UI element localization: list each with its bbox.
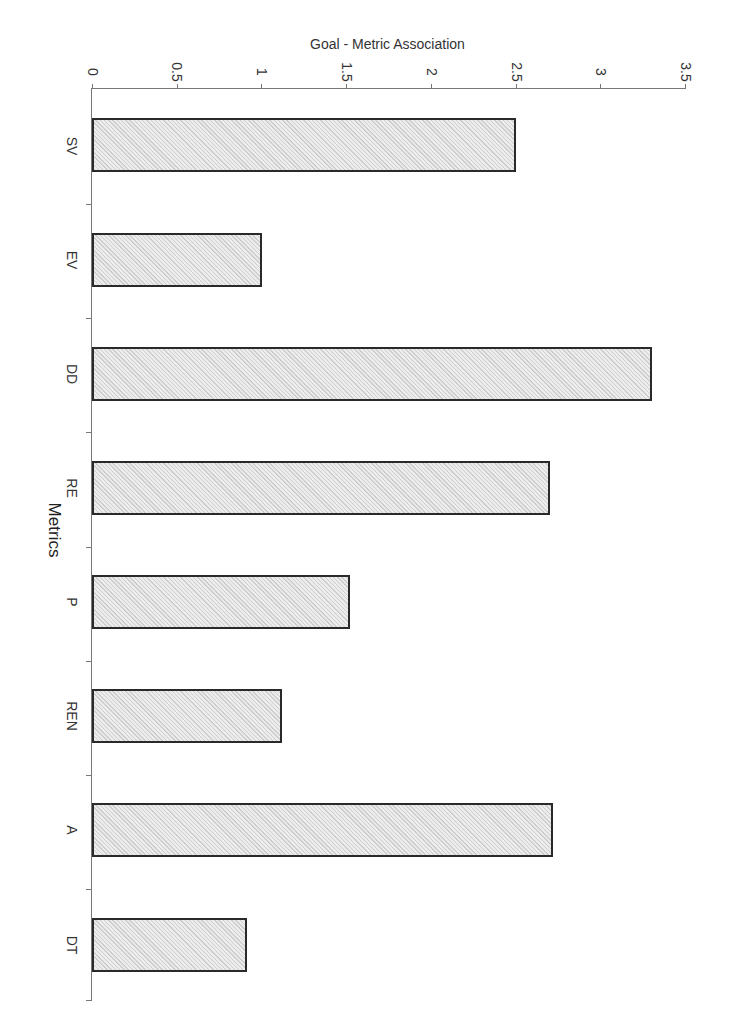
x-tick-label: 3.5	[678, 57, 694, 87]
bar-chart: Goal - Metric Association 0 0.5 1 1.5 2 …	[0, 0, 732, 1032]
x-tick-label: 0.5	[169, 57, 185, 87]
category-label: DD	[64, 354, 80, 394]
bar-re	[92, 461, 550, 515]
bar-dt	[92, 918, 247, 972]
bar-ev	[92, 233, 262, 287]
y-tick	[86, 318, 91, 319]
x-tick-label: 1.5	[339, 57, 355, 87]
x-tick-label: 3	[593, 57, 609, 87]
category-label: REN	[64, 696, 80, 736]
category-axis	[91, 88, 92, 1001]
x-tick-label: 2.5	[509, 57, 525, 87]
x-tick-label: 1	[254, 57, 270, 87]
category-label: A	[64, 810, 80, 850]
category-label: DT	[64, 925, 80, 965]
bar-dd	[92, 347, 652, 401]
bar-ren	[92, 689, 282, 743]
bar-sv	[92, 118, 516, 172]
y-tick	[86, 1000, 91, 1001]
value-axis	[92, 88, 686, 89]
category-label: RE	[64, 468, 80, 508]
x-tick-label: 0	[85, 57, 101, 87]
y-tick	[86, 775, 91, 776]
y-axis-title: Metrics	[44, 490, 64, 570]
category-label: SV	[64, 126, 80, 166]
y-tick	[86, 661, 91, 662]
chart-title: Goal - Metric Association	[310, 36, 465, 52]
y-tick	[86, 204, 91, 205]
y-tick	[86, 889, 91, 890]
category-label: EV	[64, 240, 80, 280]
category-label: P	[64, 582, 80, 622]
y-tick	[86, 432, 91, 433]
bar-p	[92, 575, 350, 629]
y-tick	[86, 547, 91, 548]
bar-a	[92, 803, 553, 857]
x-tick-label: 2	[424, 57, 440, 87]
